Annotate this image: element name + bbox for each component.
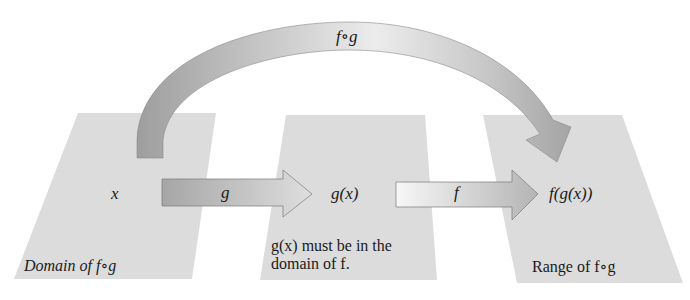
range-caption: Range of f∘g bbox=[532, 259, 615, 275]
fgx-point-label: f(g(x)) bbox=[549, 185, 592, 202]
middle-caption-line1: g(x) must be in the bbox=[271, 238, 392, 254]
middle-caption-line2: domain of f. bbox=[271, 256, 350, 272]
domain-caption: Domain of f∘g bbox=[24, 258, 116, 274]
g-arrow-label: g bbox=[221, 184, 230, 201]
f-arrow-label: f bbox=[454, 184, 459, 201]
gx-point-label: g(x) bbox=[331, 185, 358, 202]
arc-label: f∘g bbox=[336, 28, 358, 45]
x-point-label: x bbox=[111, 185, 119, 202]
